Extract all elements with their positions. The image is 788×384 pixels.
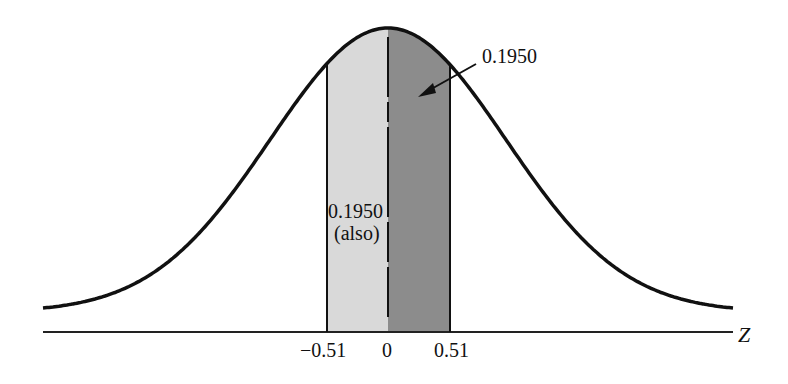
left-area-label: 0.1950: [328, 200, 383, 222]
tick-label-pos: 0.51: [434, 339, 469, 361]
normal-curve-chart: 0.1950 0.1950 (also) −0.51 0 0.51 Z: [0, 0, 788, 384]
axis-label-z: Z: [738, 322, 751, 347]
tick-label-neg: −0.51: [300, 339, 346, 361]
tick-label-zero: 0: [382, 339, 392, 361]
right-shaded-region: [388, 28, 450, 332]
left-also-label: (also): [334, 222, 380, 245]
right-area-label: 0.1950: [482, 45, 537, 67]
left-shaded-region: [327, 28, 388, 332]
